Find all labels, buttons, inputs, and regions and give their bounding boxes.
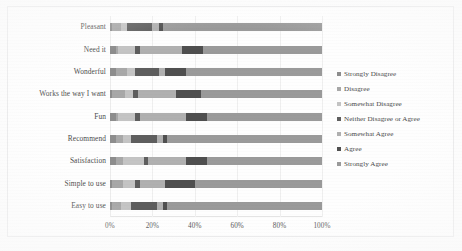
bar-segment xyxy=(112,202,120,210)
legend-label: Strongly Agree xyxy=(344,160,388,168)
tick-label: 100% xyxy=(313,222,330,230)
legend-swatch-icon xyxy=(337,162,341,166)
tick-label: 0% xyxy=(105,222,115,230)
legend-item[interactable]: Agree xyxy=(337,141,449,156)
bar-segment xyxy=(140,180,165,188)
bar-segment xyxy=(182,46,203,54)
legend-item[interactable]: Somewhat Disagree xyxy=(337,96,449,111)
category-label: Satisfaction xyxy=(70,157,106,165)
bar-segment xyxy=(112,180,123,188)
bar-segment xyxy=(201,90,322,98)
bar-row xyxy=(110,135,322,143)
bar-row xyxy=(110,46,322,54)
bar-segment xyxy=(116,68,127,76)
bar-segment xyxy=(140,113,187,121)
bar-segment xyxy=(112,23,120,31)
category-label: Works the way I want xyxy=(39,90,106,98)
legend-label: Neither Disagree or Agree xyxy=(344,115,420,123)
plot-area xyxy=(110,16,322,217)
bar-segment xyxy=(138,90,176,98)
bar-row xyxy=(110,90,322,98)
category-label: Need it xyxy=(84,46,106,54)
tick-label: 60% xyxy=(230,222,243,230)
legend-swatch-icon xyxy=(337,117,341,121)
bar-segment xyxy=(123,135,131,143)
bar-segment xyxy=(148,157,186,165)
legend-label: Strongly Disagree xyxy=(344,70,396,78)
tick-label: 80% xyxy=(273,222,286,230)
legend-label: Somewhat Disagree xyxy=(344,100,402,108)
legend-label: Somewhat Agree xyxy=(344,130,393,138)
bar-segment xyxy=(135,68,158,76)
legend-swatch-icon xyxy=(337,102,341,106)
bar-row xyxy=(110,202,322,210)
bar-row xyxy=(110,113,322,121)
bar-segment xyxy=(112,90,125,98)
bar-segment xyxy=(123,157,144,165)
bar-segment xyxy=(167,135,322,143)
bar-segment xyxy=(118,46,135,54)
category-label: Simple to use xyxy=(64,180,106,188)
legend-item[interactable]: Disagree xyxy=(337,81,449,96)
legend-swatch-icon xyxy=(337,87,341,91)
bar-segment xyxy=(140,46,182,54)
category-label: Recommend xyxy=(68,135,106,143)
legend-swatch-icon xyxy=(337,72,341,76)
tick-label: 40% xyxy=(188,222,201,230)
legend-item[interactable]: Strongly Agree xyxy=(337,156,449,171)
bar-segment xyxy=(207,157,321,165)
bar-segment xyxy=(186,68,322,76)
bar-row xyxy=(110,68,322,76)
legend-item[interactable]: Strongly Disagree xyxy=(337,66,449,81)
legend: Strongly DisagreeDisagreeSomewhat Disagr… xyxy=(337,66,449,171)
category-label: Wonderful xyxy=(74,68,106,76)
bar-segment xyxy=(176,90,201,98)
bar-segment xyxy=(163,23,322,31)
bar-segment xyxy=(207,113,321,121)
bar-row xyxy=(110,157,322,165)
bar-segment xyxy=(131,202,156,210)
category-label: Easy to use xyxy=(71,202,106,210)
legend-swatch-icon xyxy=(337,132,341,136)
bar-segment xyxy=(123,180,136,188)
bar-segment xyxy=(186,113,207,121)
legend-item[interactable]: Somewhat Agree xyxy=(337,126,449,141)
bar-segment xyxy=(203,46,322,54)
bar-segment xyxy=(186,157,207,165)
category-label: Pleasant xyxy=(81,23,106,31)
gridline-100 xyxy=(322,16,323,217)
tick-label: 20% xyxy=(146,222,159,230)
bar-segment xyxy=(127,23,152,31)
legend-item[interactable]: Neither Disagree or Agree xyxy=(337,111,449,126)
legend-label: Agree xyxy=(344,145,362,153)
chart-screenshot: PleasantNeed itWonderfulWorks the way I … xyxy=(0,0,462,251)
bar-segment xyxy=(125,90,133,98)
bar-row xyxy=(110,180,322,188)
bar-segment xyxy=(118,113,135,121)
bar-segment xyxy=(165,180,195,188)
bar-segment xyxy=(167,202,322,210)
bar-segment xyxy=(131,135,156,143)
legend-label: Disagree xyxy=(344,85,370,93)
bar-segment xyxy=(127,68,135,76)
bar-segment xyxy=(165,68,186,76)
legend-swatch-icon xyxy=(337,147,341,151)
category-label: Fun xyxy=(94,113,106,121)
bar-segment xyxy=(121,202,132,210)
bar-row xyxy=(110,23,322,31)
bar-segment xyxy=(195,180,322,188)
